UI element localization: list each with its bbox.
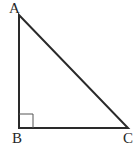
right-triangle-drawing [0, 0, 139, 149]
vertex-label-b: B [12, 131, 22, 146]
vertex-label-c: C [123, 131, 133, 146]
diagram-background [0, 0, 139, 149]
vertex-label-a: A [9, 1, 20, 16]
geometry-figure: A B C [0, 0, 139, 149]
